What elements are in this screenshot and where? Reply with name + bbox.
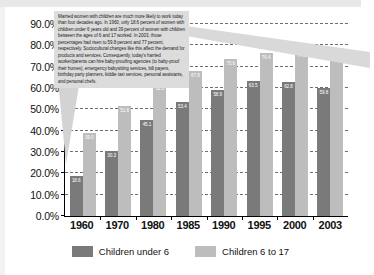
bar-value-label: 45.1 bbox=[143, 122, 152, 127]
bar: 45.1 bbox=[140, 120, 153, 216]
x-axis-tick-label: 1990 bbox=[206, 219, 242, 237]
y-axis-tick-label: 0.0% bbox=[36, 210, 59, 222]
scan-strip-top bbox=[0, 0, 361, 7]
bar-value-label: 51.6 bbox=[120, 108, 129, 113]
bar: 62.8 bbox=[282, 82, 295, 216]
legend-swatch bbox=[72, 246, 93, 257]
bar-value-label: 53.4 bbox=[178, 104, 187, 109]
bar: 53.4 bbox=[176, 102, 189, 216]
bar: 62.0 bbox=[153, 84, 166, 216]
bar: 51.6 bbox=[118, 106, 131, 216]
x-axis-tick-label: 1960 bbox=[64, 219, 100, 237]
callout-pointer-left bbox=[54, 80, 114, 210]
callout-pointer-right bbox=[186, 24, 374, 84]
legend-label: Children under 6 bbox=[99, 246, 169, 257]
x-axis-tick-label: 1980 bbox=[135, 219, 171, 237]
callout-box: Married women with children are much mor… bbox=[54, 11, 189, 88]
bar: 58.9 bbox=[211, 90, 224, 216]
callout-text: Married women with children are much mor… bbox=[58, 14, 185, 85]
x-axis-tick-label: 2000 bbox=[277, 219, 313, 237]
legend-label: Children 6 to 17 bbox=[222, 246, 289, 257]
bar-value-label: 62.8 bbox=[284, 84, 293, 89]
bar: 59.8 bbox=[317, 88, 330, 216]
bar-value-label: 59.8 bbox=[320, 90, 329, 95]
x-axis-tick-label: 2003 bbox=[313, 219, 349, 237]
bar-value-label: 58.9 bbox=[213, 92, 222, 97]
legend-item[interactable]: Children under 6 bbox=[72, 246, 169, 257]
x-axis-tick-label: 1995 bbox=[242, 219, 278, 237]
legend-swatch bbox=[195, 246, 216, 257]
x-axis-tick-label: 1985 bbox=[171, 219, 207, 237]
x-axis-tick-label: 1970 bbox=[100, 219, 136, 237]
legend-item[interactable]: Children 6 to 17 bbox=[195, 246, 289, 257]
scan-strip-left bbox=[0, 7, 5, 275]
x-axis-labels: 19601970198019851990199520002003 bbox=[64, 219, 348, 237]
bar: 67.8 bbox=[189, 71, 202, 216]
bar: 63.5 bbox=[247, 81, 260, 216]
chart-legend: Children under 6Children 6 to 17 bbox=[0, 246, 361, 257]
